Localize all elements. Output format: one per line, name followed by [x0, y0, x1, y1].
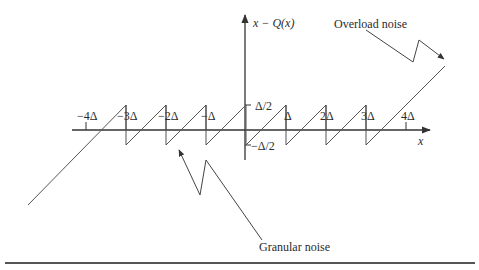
y-tick-label-neg-half: −Δ/2: [251, 139, 275, 153]
x-tick-label: −4Δ: [77, 109, 98, 123]
x-tick-label: −2Δ: [158, 109, 179, 123]
y-tick-label-half: Δ/2: [255, 99, 272, 113]
x-tick-label: Δ: [284, 109, 292, 123]
x-tick-label: −Δ: [201, 109, 216, 123]
quantization-error-diagram: −4Δ −3Δ −2Δ −Δ Δ 2Δ 3Δ 4Δ Δ/2 −Δ/2 x − Q…: [0, 0, 479, 270]
error-curve: [28, 66, 445, 205]
granular-noise-arrow: [179, 150, 262, 240]
overload-noise-arrow: [366, 30, 444, 62]
x-tick-label: −3Δ: [117, 109, 138, 123]
x-tick-label: 3Δ: [361, 109, 375, 123]
x-axis-label: x: [417, 134, 424, 148]
x-tick-label: 4Δ: [401, 109, 415, 123]
x-tick-label: 2Δ: [320, 109, 334, 123]
granular-noise-label: Granular noise: [259, 240, 330, 254]
y-axis-label: x − Q(x): [252, 16, 294, 30]
overload-noise-label: Overload noise: [334, 17, 407, 31]
